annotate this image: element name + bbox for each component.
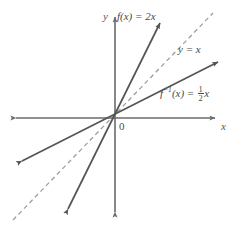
f-inverse-variable: x: [204, 87, 209, 99]
origin-label: 0: [119, 121, 125, 132]
function-label-f-of-x: f(x) = 2x: [117, 11, 156, 22]
x-axis-label: x: [221, 121, 226, 132]
graph-figure: y x 0 f(x) = 2x y = x f−1(x) = 12x: [0, 0, 233, 229]
f-inverse-exponent: −1: [163, 85, 172, 94]
function-label-f-inverse: f−1(x) = 12x: [160, 85, 209, 104]
function-line-f-inverse-of-x: [22, 62, 218, 161]
function-label-f-expression: (x) = 2x: [120, 10, 156, 22]
function-line-f-of-x: [68, 23, 160, 209]
fraction-numerator: 1: [198, 85, 204, 94]
f-inverse-argument: (x) =: [172, 87, 197, 99]
y-axis-label: y: [103, 11, 108, 22]
identity-label-text: y = x: [178, 43, 201, 55]
fraction-denominator: 2: [198, 93, 204, 103]
identity-label-y-equals-x: y = x: [178, 44, 201, 55]
coordinate-plane-svg: [0, 0, 233, 229]
one-half-fraction: 12: [198, 85, 204, 104]
